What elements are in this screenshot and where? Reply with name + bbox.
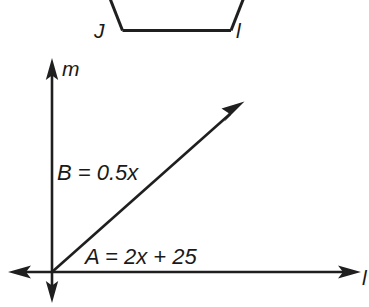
- vertex-label-j: J: [93, 19, 105, 42]
- quadrilateral-left-side: [109, 0, 123, 31]
- partial-quadrilateral-shape: [109, 0, 245, 31]
- geometry-figure: J l m l B = 0.5x: [0, 0, 369, 307]
- axis-label-l: l: [362, 266, 368, 289]
- axis-label-m: m: [62, 57, 80, 80]
- angle-label-a: A = 2x + 25: [83, 244, 197, 269]
- angle-label-b: B = 0.5x: [57, 160, 139, 185]
- vertex-label-i: l: [236, 19, 242, 42]
- figure-canvas: J l m l B = 0.5x: [0, 0, 369, 307]
